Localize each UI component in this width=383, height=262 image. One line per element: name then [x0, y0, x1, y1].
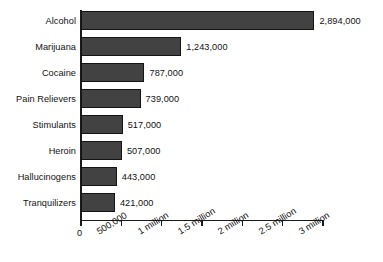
- bars-layer: Alcohol2,894,000Marijuana1,243,000Cocain…: [0, 0, 383, 262]
- bar: [81, 193, 115, 212]
- category-label: Tranquilizers: [0, 193, 76, 213]
- bar-row: Marijuana1,243,000: [0, 37, 383, 63]
- bar: [81, 141, 122, 160]
- bar: [81, 63, 144, 82]
- bar-row: Stimulants517,000: [0, 115, 383, 141]
- category-label: Stimulants: [0, 115, 76, 135]
- category-label: Alcohol: [0, 11, 76, 31]
- bar: [81, 115, 123, 134]
- bar-chart: 0500,0001 million1.5 million2 million2.5…: [0, 0, 383, 262]
- bar-value-label: 1,243,000: [186, 37, 227, 57]
- bar-row: Heroin507,000: [0, 141, 383, 167]
- bar: [81, 11, 314, 30]
- bar-row: Alcohol2,894,000: [0, 11, 383, 37]
- bar: [81, 89, 141, 108]
- plot-area: 0500,0001 million1.5 million2 million2.5…: [0, 0, 383, 262]
- bar-value-label: 517,000: [128, 115, 162, 135]
- category-label: Cocaine: [0, 63, 76, 83]
- bar: [81, 37, 181, 56]
- bar: [81, 167, 117, 186]
- category-label: Marijuana: [0, 37, 76, 57]
- bar-row: Hallucinogens443,000: [0, 167, 383, 193]
- category-label: Hallucinogens: [0, 167, 76, 187]
- bar-row: Pain Relievers739,000: [0, 89, 383, 115]
- bar-row: Tranquilizers421,000: [0, 193, 383, 219]
- bar-value-label: 443,000: [122, 167, 156, 187]
- category-label: Pain Relievers: [0, 89, 76, 109]
- bar-value-label: 739,000: [146, 89, 180, 109]
- bar-value-label: 787,000: [149, 63, 183, 83]
- bar-value-label: 2,894,000: [319, 11, 360, 31]
- category-label: Heroin: [0, 141, 76, 161]
- bar-value-label: 507,000: [127, 141, 161, 161]
- bar-value-label: 421,000: [120, 193, 154, 213]
- bar-row: Cocaine787,000: [0, 63, 383, 89]
